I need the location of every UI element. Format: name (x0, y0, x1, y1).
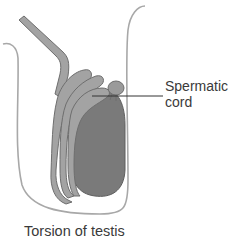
spermatic-cord-label-line1: Spermatic (165, 78, 245, 94)
appendix-testis (108, 81, 124, 95)
torsion-of-testis-diagram (0, 0, 249, 248)
spermatic-cord-label: Spermatic cord (165, 78, 245, 110)
vas-deferens (19, 16, 69, 98)
diagram-caption: Torsion of testis (24, 223, 125, 239)
spermatic-cord-label-line2: cord (165, 94, 245, 110)
